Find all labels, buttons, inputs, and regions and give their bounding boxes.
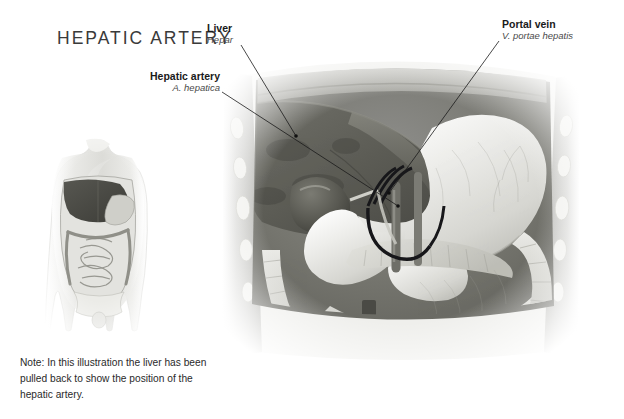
abdominal-cavity-illustration: [216, 56, 586, 364]
rib-sections-right: [552, 114, 574, 302]
ascending-colon: [262, 250, 318, 356]
pancreas: [346, 239, 513, 278]
body-wall-right: [544, 76, 580, 353]
label-portal-vein: Portal vein V. portae hepatis: [502, 18, 573, 42]
vascular-bundle: [368, 166, 444, 268]
splenic-artery: [430, 206, 444, 246]
gallbladder-highlight: [300, 186, 330, 190]
leader-portal-vein: [387, 41, 499, 195]
rib-sections-left: [229, 116, 254, 302]
stomach-greater-curvature: [382, 236, 520, 268]
human-torso-orientation-figure: [36, 130, 164, 346]
label-hepatic-artery-english: Hepatic artery: [0, 70, 220, 82]
mini-stomach: [105, 195, 134, 225]
superior-mesenteric-vessel-stump: [362, 300, 376, 324]
duodenum-highlight: [400, 254, 444, 260]
body-wall-left: [222, 74, 262, 353]
liver-superior-edge: [250, 101, 432, 160]
stomach-vessels: [494, 146, 529, 212]
illustration-plate: HEPATIC ARTERY: [0, 0, 624, 419]
torso-silhouette: [224, 61, 578, 360]
common-bile-duct: [378, 192, 396, 244]
illustration-note: Note: In this illustration the liver has…: [20, 355, 220, 402]
liver-retracted-lobe: [348, 112, 433, 194]
cystic-duct: [350, 190, 378, 200]
mini-transverse-colon: [68, 230, 128, 238]
gallbladder: [290, 177, 350, 233]
mini-descending-colon: [126, 230, 130, 284]
hepatic-artery-branch-3: [381, 168, 412, 203]
mini-pubic-symphysis: [92, 312, 106, 328]
pancreas-lobulation: [364, 243, 488, 272]
label-hepatic-artery-latin: A. hepatica: [0, 82, 220, 93]
hepatic-artery-branch-2: [374, 166, 404, 204]
label-liver: Liver Hepar: [207, 22, 233, 46]
stomach-rugae: [436, 142, 518, 214]
hepatic-artery-trunk: [368, 208, 430, 259]
liver-texture: [250, 138, 360, 205]
descending-colon: [512, 232, 552, 338]
label-portal-vein-english: Portal vein: [502, 18, 573, 30]
illustration-vignette: [216, 56, 586, 362]
mini-pelvis: [74, 292, 124, 317]
transverse-colon: [306, 282, 546, 364]
omentum: [420, 270, 506, 322]
label-liver-latin: Hepar: [207, 34, 233, 45]
mini-liver: [64, 179, 129, 222]
diaphragm-edge: [252, 83, 554, 98]
stomach: [358, 115, 546, 268]
label-portal-vein-latin: V. portae hepatis: [502, 30, 573, 41]
label-liver-english: Liver: [207, 22, 233, 34]
abdominal-cavity-interior: [252, 68, 554, 319]
orientation-figure-vignette: [36, 130, 164, 346]
liver: [250, 101, 443, 238]
leader-hepatic-artery: [222, 92, 400, 208]
leader-liver: [241, 45, 298, 138]
liver-lobe-fissure: [330, 150, 392, 232]
mini-ascending-colon: [66, 232, 70, 284]
label-hepatic-artery: Hepatic artery A. hepatica: [0, 70, 220, 94]
duodenum: [388, 242, 468, 301]
hepatic-artery-branch-1: [368, 168, 396, 206]
mini-abdominal-cavity: [60, 176, 135, 302]
diaphragm: [252, 65, 554, 104]
stomach-antrum: [304, 209, 405, 284]
mini-small-intestine: [78, 238, 113, 287]
